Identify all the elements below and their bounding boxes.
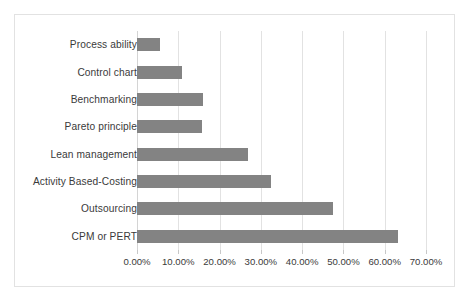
category-label: Outsourcing [23,195,137,222]
bar-slot [137,168,426,195]
bar-slot [137,86,426,113]
bar-slot [137,113,426,140]
axis-tick-mark [385,250,386,254]
axis-tick-label: 20.00% [203,256,236,267]
chart-plot-wrapper: Process abilityControl chartBenchmarking… [15,15,454,286]
axis-tick-mark [220,250,221,254]
bar-slot [137,195,426,222]
axis-tick-mark [178,250,179,254]
axis-tick-label: 30.00% [245,256,278,267]
bar [137,120,202,133]
bar-slot [137,141,426,168]
category-label: Process ability [23,31,137,58]
bar [137,148,248,161]
category-label: Benchmarking [23,86,137,113]
bar [137,202,333,215]
bar-slot [137,58,426,85]
axis-tick-label: 0.00% [123,256,150,267]
bar [137,175,271,188]
axis-tick-mark [137,250,138,254]
category-axis: Process abilityControl chartBenchmarking… [23,31,137,250]
axis-tick-label: 70.00% [410,256,443,267]
axis-tick-label: 40.00% [286,256,319,267]
bar-series [137,31,426,250]
gridline [426,31,427,250]
category-label: Lean management [23,141,137,168]
chart-frame: Process abilityControl chartBenchmarking… [14,14,455,287]
axis-tick-mark [343,250,344,254]
plot-area [137,31,426,250]
bar [137,38,160,51]
axis-tick-mark [302,250,303,254]
category-label: Activity Based-Costing [23,168,137,195]
bar [137,230,398,243]
bar-slot [137,223,426,250]
axis-tick-label: 60.00% [368,256,401,267]
axis-tick-label: 50.00% [327,256,360,267]
category-label: CPM or PERT [23,223,137,250]
bar-slot [137,31,426,58]
category-label: Pareto principle [23,113,137,140]
category-label: Control chart [23,58,137,85]
axis-tick-mark [261,250,262,254]
axis-tick-mark [426,250,427,254]
bar [137,93,203,106]
bar [137,66,182,79]
value-axis: 0.00%10.00%20.00%30.00%40.00%50.00%60.00… [137,250,426,274]
axis-tick-label: 10.00% [162,256,195,267]
